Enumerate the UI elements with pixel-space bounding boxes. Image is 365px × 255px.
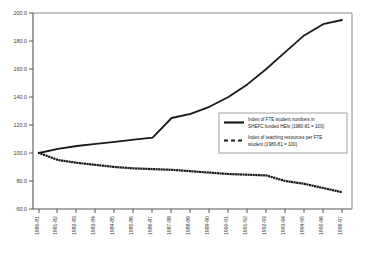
y-tick-label: 120.0 [14, 122, 28, 128]
series-dot [122, 167, 124, 169]
series-dot [166, 169, 168, 171]
series-dot [94, 164, 96, 166]
series-dot [81, 162, 83, 164]
series-dot [150, 168, 152, 170]
series-dot [253, 174, 255, 176]
series-dot [179, 169, 181, 171]
series-dot [304, 183, 306, 185]
series-dot [271, 176, 273, 178]
series-dot [43, 154, 45, 156]
series-dot [38, 152, 40, 154]
series-dot [176, 169, 178, 171]
series-dot [63, 160, 65, 162]
series-dot [314, 185, 316, 187]
x-tick-label: 1983-84 [90, 216, 96, 235]
series-dot [181, 169, 183, 171]
x-tick-label: 1986-87 [147, 216, 153, 235]
series-dot [196, 171, 198, 173]
series-dot [222, 173, 224, 175]
x-tick-label: 1988-89 [185, 216, 191, 235]
series-dot [250, 174, 252, 176]
series-dot [288, 181, 290, 183]
series-dot [263, 174, 265, 176]
series-dot [273, 177, 275, 179]
series-dot [301, 182, 303, 184]
series-dot [51, 157, 53, 159]
x-tick-label: 1984-85 [109, 216, 115, 235]
x-tick-label: 1985-86 [128, 216, 134, 235]
series-dot [204, 171, 206, 173]
series-dot [319, 186, 321, 188]
series-dot [245, 174, 247, 176]
series-dot [89, 163, 91, 165]
series-dot [138, 167, 140, 169]
series-dot [268, 175, 270, 177]
series-dot [332, 189, 334, 191]
series-dot [71, 161, 73, 163]
x-tick-label: 1995-96 [318, 216, 324, 235]
series-dot [337, 190, 339, 192]
series-dot [53, 158, 55, 160]
series-dot [194, 170, 196, 172]
series-dot [329, 189, 331, 191]
series-dot [153, 168, 155, 170]
series-dot [191, 170, 193, 172]
series-dot [334, 190, 336, 192]
series-dot [283, 180, 285, 182]
series-dot [240, 173, 242, 175]
series-dot [104, 165, 106, 167]
line-chart: 60.0 80.0 100.0 120.0 140.0 160.0 [0, 0, 365, 255]
series-dot [230, 173, 232, 175]
series-dot [227, 173, 229, 175]
y-tick-label: 80.0 [17, 178, 28, 184]
series-dot [86, 163, 88, 165]
chart-container: 60.0 80.0 100.0 120.0 140.0 160.0 [0, 0, 365, 255]
series-dot [235, 173, 237, 175]
series-dot [84, 163, 86, 165]
series-dot [309, 184, 311, 186]
y-tick-label: 200.0 [14, 10, 28, 16]
series-dot [219, 172, 221, 174]
series-dot [299, 182, 301, 184]
series-dot [340, 191, 342, 193]
series-dot [327, 188, 329, 190]
y-tick-label: 140.0 [14, 94, 28, 100]
series-dot [76, 162, 78, 164]
series-dot [278, 178, 280, 180]
x-tick-label: 1990-91 [223, 216, 229, 235]
series-dot [156, 168, 158, 170]
series-dot [97, 164, 99, 166]
series-dot [173, 169, 175, 171]
x-tick-label: 1993-94 [280, 216, 286, 235]
x-tick-label: 1992-93 [261, 216, 267, 235]
y-tick-label: 100.0 [14, 150, 28, 156]
x-tick-label: 1980-81 [34, 216, 40, 235]
legend-label-line2: SHEFC funded HEIs (1980-81 = 100) [248, 124, 325, 129]
series-dot [294, 181, 296, 183]
series-dot [242, 173, 244, 175]
series-dot [158, 168, 160, 170]
series-dot [145, 168, 147, 170]
series-dot [291, 181, 293, 183]
series-dot [258, 174, 260, 176]
x-tick-label: 1987-88 [166, 216, 172, 235]
series-dot [199, 171, 201, 173]
y-tick-label: 160.0 [14, 66, 28, 72]
series-dot [107, 165, 109, 167]
series-dot [260, 174, 262, 176]
series-dot [148, 168, 150, 170]
series-dot [276, 177, 278, 179]
series-dot [46, 155, 48, 157]
x-tick-label: 1981-82 [52, 216, 58, 235]
x-tick-label: 1991-92 [242, 216, 248, 235]
x-tick-label: 1994-95 [299, 216, 305, 235]
series-dot [317, 186, 319, 188]
series-dot [324, 187, 326, 189]
series-dot [117, 166, 119, 168]
series-dot [130, 167, 132, 169]
series-dot [99, 164, 101, 166]
series-dot [311, 185, 313, 187]
legend-label-line2: student (1980-81 = 100) [248, 142, 298, 147]
legend-label-line1: Index of teaching resources per FTE [248, 135, 322, 140]
series-dot [207, 171, 209, 173]
